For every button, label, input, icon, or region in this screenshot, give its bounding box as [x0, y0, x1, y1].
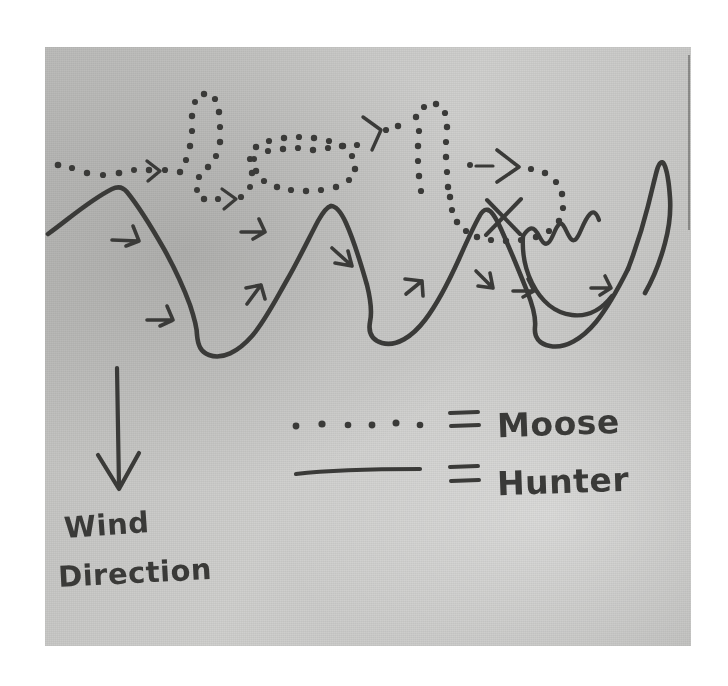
- legend-label-hunter: Hunter: [496, 460, 629, 504]
- screenshot-root: Wind Direction Moose Hunter: [0, 0, 728, 686]
- paper-edge-shadow: [688, 55, 690, 230]
- wind-direction-label-line1: Wind: [63, 505, 151, 545]
- legend-label-moose: Moose: [496, 402, 620, 445]
